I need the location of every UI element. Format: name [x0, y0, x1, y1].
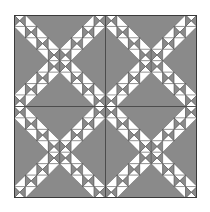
quilt-pattern-graphic	[14, 15, 197, 198]
quilt-block	[14, 15, 197, 198]
